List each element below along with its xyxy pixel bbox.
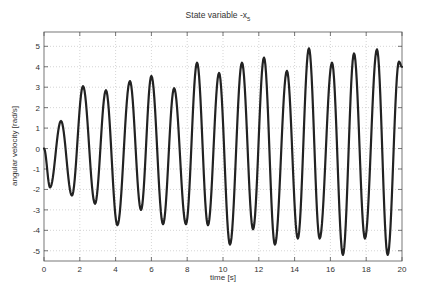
y-tick-label: 4	[36, 63, 41, 72]
x-tick-label: 8	[185, 265, 190, 274]
chart: State variable -x5 02468101214161820 543…	[0, 0, 423, 295]
x-tick-label: 12	[254, 265, 263, 274]
y-tick-label: 1	[36, 124, 41, 133]
chart-title: State variable -x5	[186, 10, 251, 22]
x-tick-label: 2	[78, 265, 83, 274]
y-tick-label: -1	[33, 165, 41, 174]
x-tick-label: 20	[398, 265, 407, 274]
y-tick-label: -5	[33, 247, 41, 256]
y-tick-label: 3	[36, 83, 41, 92]
y-tick-label: 2	[36, 104, 41, 113]
y-axis-label: angular velocity [rad/s]	[10, 106, 19, 186]
x-tick-label: 16	[326, 265, 335, 274]
y-tick-labels: 543210-1-2-3-4-5	[33, 42, 41, 255]
y-tick-label: -4	[33, 226, 41, 235]
x-tick-label: 18	[362, 265, 371, 274]
y-tick-label: 5	[36, 42, 41, 51]
x-tick-label: 6	[149, 265, 154, 274]
y-tick-label: -2	[33, 185, 41, 194]
data-line	[44, 48, 402, 255]
y-tick-label: 0	[36, 145, 41, 154]
x-axis-label: time [s]	[210, 273, 236, 282]
y-tick-label: -3	[33, 206, 41, 215]
x-tick-label: 14	[290, 265, 299, 274]
x-tick-label: 4	[113, 265, 118, 274]
x-tick-label: 0	[42, 265, 47, 274]
